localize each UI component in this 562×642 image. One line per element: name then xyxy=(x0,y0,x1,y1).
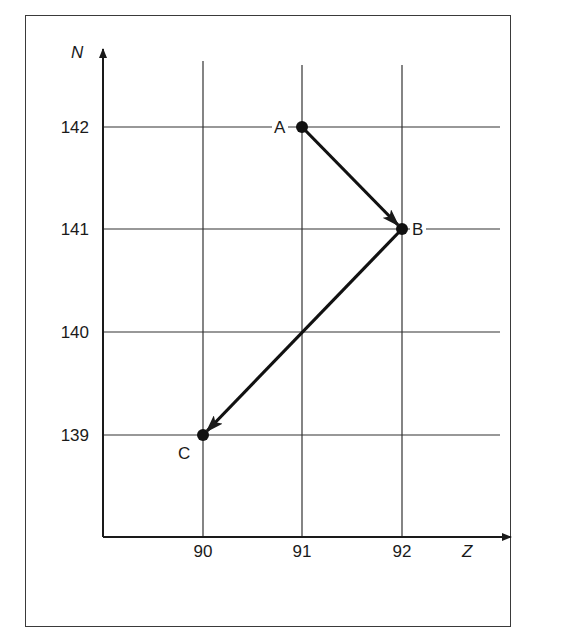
y-tick-141: 141 xyxy=(61,220,89,239)
x-tick-90: 90 xyxy=(194,542,213,561)
point-c-label: C xyxy=(178,444,190,463)
y-tick-142: 142 xyxy=(61,118,89,137)
x-axis-label: Z xyxy=(461,542,473,561)
vector-diagram: N Z 142 141 140 139 90 91 92 A B C xyxy=(0,0,562,642)
y-tick-139: 139 xyxy=(61,426,89,445)
x-tick-91: 91 xyxy=(293,542,312,561)
point-a-label: A xyxy=(274,118,286,137)
vector-b-to-c xyxy=(207,229,402,431)
point-a-marker xyxy=(296,121,308,133)
point-b-marker xyxy=(396,223,408,235)
x-tick-92: 92 xyxy=(393,542,412,561)
point-b-label: B xyxy=(412,220,423,239)
point-c-marker xyxy=(197,429,209,441)
y-tick-140: 140 xyxy=(61,323,89,342)
vector-a-to-b xyxy=(302,127,398,225)
y-axis-label: N xyxy=(71,43,84,62)
